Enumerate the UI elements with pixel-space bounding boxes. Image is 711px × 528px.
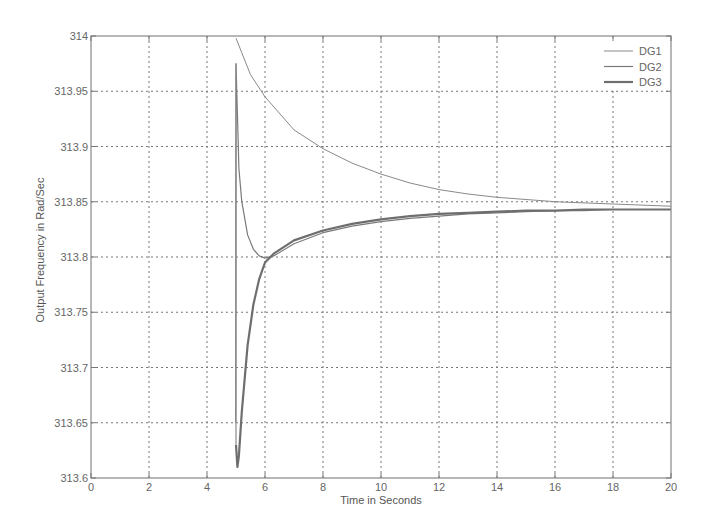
y-tick-label: 313.75 (54, 306, 88, 318)
x-tick-label: 2 (146, 481, 152, 493)
x-tick-label: 10 (375, 481, 387, 493)
y-tick-label: 313.7 (60, 362, 88, 374)
x-axis-label: Time in Seconds (340, 494, 422, 506)
series-line-dg2 (236, 64, 671, 423)
series-line-dg3 (236, 210, 671, 468)
x-tick-label: 8 (320, 481, 326, 493)
x-tick-label: 16 (549, 481, 561, 493)
x-tick-label: 6 (262, 481, 268, 493)
y-tick-label: 313.8 (60, 251, 88, 263)
x-tick-label: 18 (607, 481, 619, 493)
x-tick-label: 14 (491, 481, 503, 493)
legend-label-dg1: DG1 (639, 45, 662, 57)
x-tick-label: 20 (665, 481, 677, 493)
y-tick-label: 313.9 (60, 141, 88, 153)
chart-canvas: 02468101214161820 313.6313.65313.7313.75… (0, 0, 711, 528)
x-tick-label: 4 (204, 481, 210, 493)
legend: DG1DG2DG3 (604, 45, 662, 88)
y-tick-label: 313.85 (54, 196, 88, 208)
x-tick-label: 12 (433, 481, 445, 493)
y-tick-label: 313.65 (54, 417, 88, 429)
data-series (236, 38, 671, 467)
y-tick-label: 313.6 (60, 472, 88, 484)
x-axis-ticks: 02468101214161820 (88, 36, 677, 493)
legend-label-dg3: DG3 (639, 76, 662, 88)
x-tick-label: 0 (88, 481, 94, 493)
legend-label-dg2: DG2 (639, 61, 662, 73)
y-tick-label: 313.95 (54, 85, 88, 97)
y-axis-label: Output Frequency in Rad/Sec (34, 177, 46, 322)
y-tick-label: 314 (70, 30, 88, 42)
grid-lines (91, 36, 671, 478)
